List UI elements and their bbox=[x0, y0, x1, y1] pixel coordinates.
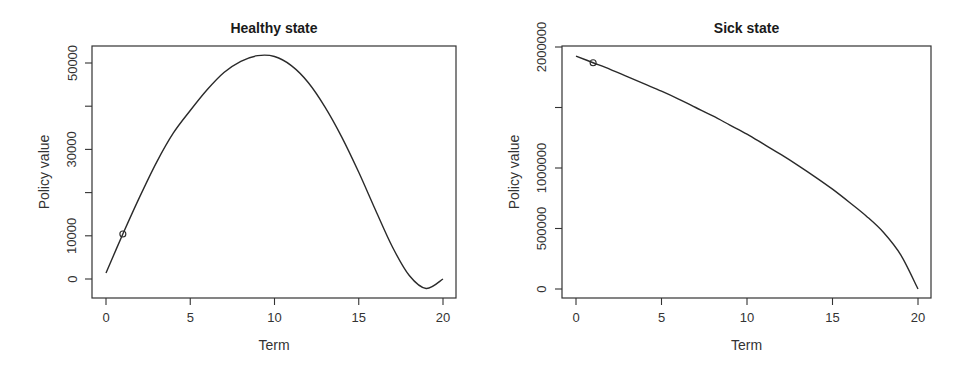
y-tick-label: 500000 bbox=[534, 207, 549, 250]
y-tick-label: 0 bbox=[534, 285, 549, 292]
x-tick-label: 10 bbox=[267, 310, 281, 325]
y-tick-label: 10000 bbox=[65, 218, 80, 254]
y-axis-label: Policy value bbox=[506, 134, 522, 209]
y-tick-label: 1000000 bbox=[534, 143, 549, 194]
chart-panel-healthy: Healthy state051015200100003000050000Ter… bbox=[36, 20, 456, 353]
chart-title: Sick state bbox=[714, 20, 780, 36]
y-axis-label: Policy value bbox=[36, 134, 52, 209]
x-axis-label: Term bbox=[258, 337, 289, 353]
x-tick-label: 0 bbox=[102, 310, 109, 325]
x-tick-label: 10 bbox=[740, 310, 754, 325]
x-tick-label: 5 bbox=[658, 310, 665, 325]
x-tick-label: 5 bbox=[187, 310, 194, 325]
y-tick-label: 0 bbox=[65, 275, 80, 282]
chart-panel-sick: Sick state05101520050000010000002000000T… bbox=[506, 20, 931, 353]
series-line bbox=[576, 56, 918, 289]
x-tick-label: 20 bbox=[436, 310, 450, 325]
plot-frame bbox=[92, 46, 456, 298]
x-tick-label: 15 bbox=[352, 310, 366, 325]
y-tick-label: 2000000 bbox=[534, 22, 549, 73]
x-tick-label: 15 bbox=[825, 310, 839, 325]
y-tick-label: 50000 bbox=[65, 45, 80, 81]
x-axis-label: Term bbox=[731, 337, 762, 353]
chart-title: Healthy state bbox=[230, 20, 317, 36]
x-tick-label: 0 bbox=[572, 310, 579, 325]
series-line bbox=[106, 55, 443, 288]
plot-frame bbox=[562, 46, 931, 298]
chart-canvas: Healthy state051015200100003000050000Ter… bbox=[0, 0, 964, 369]
y-tick-label: 30000 bbox=[65, 131, 80, 167]
x-tick-label: 20 bbox=[911, 310, 925, 325]
